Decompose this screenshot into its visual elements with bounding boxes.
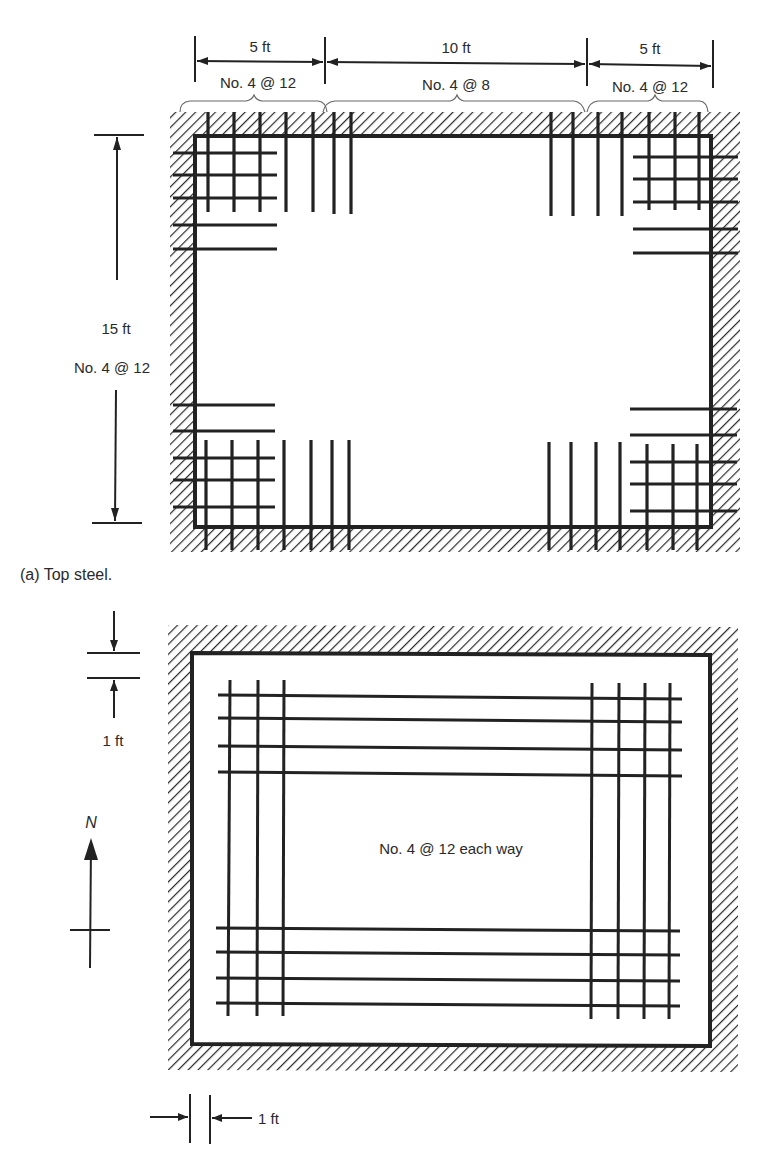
figure-canvas: 5 ft No. 4 @ 12 10 ft No. 4 @ 8 5 ft No.… — [0, 0, 759, 1156]
dim-middle-length: 10 ft — [441, 39, 471, 56]
horizontal-offset-label: 1 ft — [258, 1110, 280, 1127]
dim-vertical-bars: No. 4 @ 12 — [74, 359, 150, 376]
vertical-offset-dimension — [87, 611, 140, 718]
span-braces — [180, 95, 708, 112]
vertical-offset-label: 1 ft — [103, 732, 125, 749]
dim-right-length: 5 ft — [640, 40, 662, 57]
north-label: N — [85, 814, 97, 831]
reinforcement-plan-figure: 5 ft No. 4 @ 12 10 ft No. 4 @ 8 5 ft No.… — [0, 0, 759, 1156]
mesh-label: No. 4 @ 12 each way — [379, 840, 523, 857]
dim-vertical-length: 15 ft — [101, 320, 131, 337]
caption-top-steel: (a) Top steel. — [20, 566, 112, 583]
dim-right-bars: No. 4 @ 12 — [612, 78, 688, 95]
dim-left-bars: No. 4 @ 12 — [220, 74, 296, 91]
dim-left-length: 5 ft — [250, 38, 272, 55]
bottom-steel-plan: No. 4 @ 12 each way 1 ft N 1 ft — [70, 611, 738, 1144]
north-arrow-icon — [70, 838, 110, 968]
slab-edge — [195, 136, 711, 527]
horizontal-offset-dimension — [150, 1094, 252, 1144]
dim-middle-bars: No. 4 @ 8 — [422, 76, 490, 93]
top-steel-plan: 5 ft No. 4 @ 12 10 ft No. 4 @ 8 5 ft No.… — [20, 36, 740, 583]
